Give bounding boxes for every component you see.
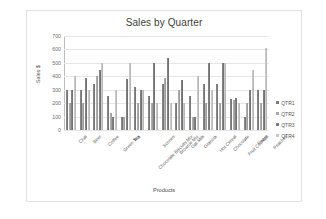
bar-group[interactable] xyxy=(203,36,214,130)
bar[interactable] xyxy=(101,63,103,130)
bar[interactable] xyxy=(142,90,144,130)
y-axis-title: Sales $ xyxy=(35,65,41,83)
y-axis-tick-label: 300 xyxy=(52,87,61,93)
bar-group[interactable] xyxy=(257,36,268,130)
y-axis-tick-label: 600 xyxy=(52,46,61,52)
bar-group[interactable] xyxy=(162,36,173,130)
legend-label: QTR1 xyxy=(281,100,294,106)
bar-group[interactable] xyxy=(134,36,145,130)
x-axis-tick-label: Beer xyxy=(92,134,102,144)
chart-container[interactable]: Sales by Quarter Sales $ 010020030040050… xyxy=(26,10,302,202)
y-axis-tick-label: 400 xyxy=(52,73,61,79)
legend-label: QTR3 xyxy=(281,122,294,128)
bar[interactable] xyxy=(129,63,131,130)
legend-label: QTR2 xyxy=(281,111,294,117)
bar-group[interactable] xyxy=(121,36,132,130)
chart-legend[interactable]: QTR1QTR2QTR3QTR4 xyxy=(276,97,318,141)
x-axis-tick-label: Scones xyxy=(162,134,176,148)
y-axis-tick-label: 200 xyxy=(52,100,61,106)
bar[interactable] xyxy=(170,103,172,130)
x-axis-tick-label: Coffee xyxy=(106,134,119,147)
chart-title: Sales by Quarter xyxy=(27,17,301,28)
bar-group[interactable] xyxy=(107,36,118,130)
legend-swatch-icon xyxy=(276,112,279,115)
y-axis-tick-label: 700 xyxy=(52,33,61,39)
y-axis-tick-label: 100 xyxy=(52,114,61,120)
x-axis-tick-label: Chai xyxy=(78,134,88,144)
x-axis-title: Products xyxy=(27,187,301,193)
y-axis-tick-label: 0 xyxy=(58,127,61,133)
legend-item[interactable]: QTR2 xyxy=(276,108,318,119)
bar[interactable] xyxy=(156,103,158,130)
bar[interactable] xyxy=(74,76,76,130)
bar[interactable] xyxy=(224,63,226,130)
bar-group[interactable] xyxy=(66,36,77,130)
bar-group[interactable] xyxy=(93,36,104,130)
x-axis-labels: ChaiBeerCoffeeGreen TeaTeaChocolate Bisc… xyxy=(64,132,269,184)
legend-swatch-icon xyxy=(276,123,279,126)
x-axis-tick-label: Chocolate Biscuits Mix xyxy=(157,134,193,170)
legend-item[interactable]: QTR4 xyxy=(276,130,318,141)
bar[interactable] xyxy=(115,90,117,130)
bar[interactable] xyxy=(211,90,213,130)
bar[interactable] xyxy=(183,103,185,130)
bar-group[interactable] xyxy=(189,36,200,130)
bar-group[interactable] xyxy=(175,36,186,130)
bar-group[interactable] xyxy=(244,36,255,130)
bar-group[interactable] xyxy=(216,36,227,130)
bar[interactable] xyxy=(252,70,254,130)
bar[interactable] xyxy=(197,76,199,130)
legend-item[interactable]: QTR3 xyxy=(276,119,318,130)
gridline xyxy=(64,130,269,131)
legend-item[interactable]: QTR1 xyxy=(276,97,318,108)
legend-swatch-icon xyxy=(276,101,279,104)
legend-swatch-icon xyxy=(276,134,279,137)
bar-group[interactable] xyxy=(230,36,241,130)
bar[interactable] xyxy=(238,103,240,130)
bar-group[interactable] xyxy=(80,36,91,130)
legend-label: QTR4 xyxy=(281,133,294,139)
bar-group[interactable] xyxy=(148,36,159,130)
y-axis-tick-label: 500 xyxy=(52,60,61,66)
plot-area: 0100200300400500600700 xyxy=(64,36,269,131)
bar[interactable] xyxy=(265,48,267,130)
bar[interactable] xyxy=(88,90,90,130)
